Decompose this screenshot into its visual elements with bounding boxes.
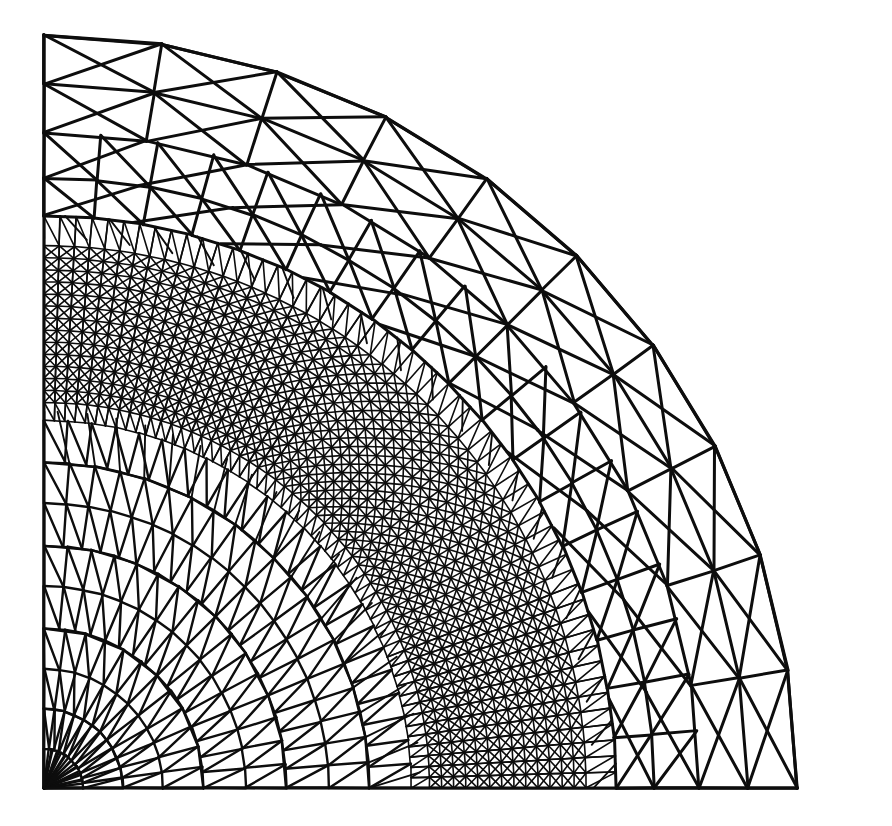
mesh-figure <box>0 0 892 826</box>
mesh-canvas <box>0 0 892 826</box>
